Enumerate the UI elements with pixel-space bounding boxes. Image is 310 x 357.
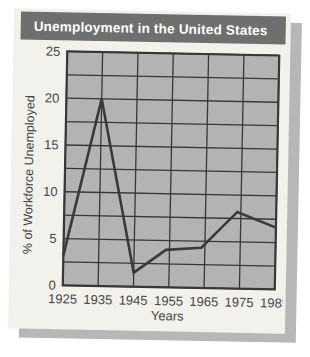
x-axis-tick-label: 1935 — [83, 292, 112, 308]
x-axis-tick-label: 1945 — [119, 292, 148, 308]
y-axis-tick-label: 5 — [49, 231, 57, 246]
figure-card: Unemployment in the United States 051015… — [8, 8, 291, 333]
unemployment-line-chart: 05101520251925193519451955196519751985 %… — [10, 34, 287, 327]
y-axis-title: % of Workforce Unemployed — [20, 95, 37, 254]
x-axis-title: Years — [151, 308, 185, 324]
scanned-textbook-figure: Unemployment in the United States 051015… — [0, 0, 310, 357]
x-axis-tick-label: 1925 — [48, 291, 77, 307]
x-axis-tick-label: 1955 — [154, 293, 183, 309]
x-axis-tick-label: 1985 — [260, 295, 288, 311]
y-axis-tick-label: 10 — [43, 184, 58, 199]
x-axis-tick-label: 1965 — [189, 294, 218, 310]
y-axis-tick-label: 25 — [46, 43, 61, 58]
y-axis-tick-label: 15 — [44, 137, 59, 152]
y-axis-tick-label: 20 — [45, 90, 60, 105]
x-axis-tick-label: 1975 — [225, 294, 254, 310]
